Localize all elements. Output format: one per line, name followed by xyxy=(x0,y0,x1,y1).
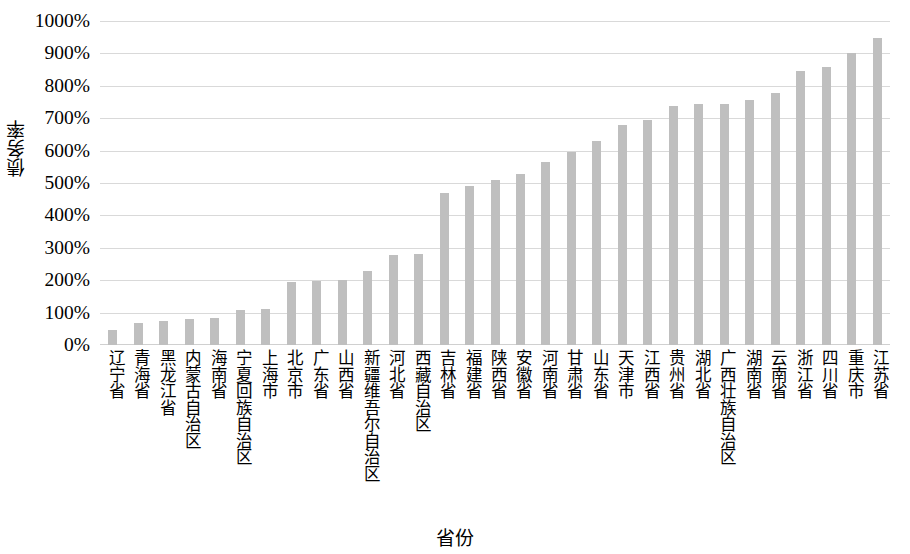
x-axis-tick-label: 四川省 xyxy=(817,349,837,399)
bar-chart: 债务率 1000%900%800%700%600%500%400%300%200… xyxy=(0,0,910,554)
bar xyxy=(618,125,627,345)
bar xyxy=(643,120,652,345)
x-axis-tick-label: 宁夏回族自治区 xyxy=(231,349,251,465)
x-axis-tick-labels: 辽宁省青海省黑龙江省内蒙古自治区海南省宁夏回族自治区上海市北京市广东省山西省新疆… xyxy=(100,349,890,529)
x-axis-title: 省份 xyxy=(0,528,910,550)
bar xyxy=(491,180,500,345)
bar xyxy=(159,321,168,345)
bar xyxy=(822,67,831,345)
bar-series xyxy=(100,21,890,345)
bar xyxy=(261,309,270,345)
y-axis-tick-label: 500% xyxy=(45,173,91,193)
y-axis-tick-label: 600% xyxy=(45,141,91,161)
bar xyxy=(108,330,117,345)
bar xyxy=(771,93,780,345)
bar xyxy=(389,255,398,345)
bar xyxy=(720,104,729,345)
bar xyxy=(567,152,576,345)
bar xyxy=(287,282,296,345)
x-axis-tick-label: 陕西省 xyxy=(486,349,506,399)
bar xyxy=(363,271,372,345)
x-axis-tick-label: 河北省 xyxy=(384,349,404,399)
bar xyxy=(745,100,754,345)
x-axis-tick-label: 云南省 xyxy=(766,349,786,399)
bar xyxy=(465,186,474,345)
y-axis-tick-label: 1000% xyxy=(35,11,90,31)
bar xyxy=(312,281,321,345)
bar xyxy=(796,71,805,345)
bar xyxy=(414,254,423,345)
x-axis-tick-label: 重庆市 xyxy=(843,349,863,399)
x-axis-tick-label: 江西省 xyxy=(639,349,659,399)
y-axis-tick-label: 200% xyxy=(45,270,91,290)
x-axis-tick-label: 新疆维吾尔自治区 xyxy=(359,349,379,481)
x-axis-tick-label: 天津市 xyxy=(613,349,633,399)
x-axis-tick-label: 吉林省 xyxy=(435,349,455,399)
bar xyxy=(210,318,219,345)
x-axis-tick-label: 河南省 xyxy=(537,349,557,399)
bar xyxy=(873,38,882,345)
x-axis-tick-label: 贵州省 xyxy=(664,349,684,399)
x-axis-tick-label: 辽宁省 xyxy=(104,349,124,399)
x-axis-tick-label: 海南省 xyxy=(206,349,226,399)
y-axis-tick-label: 400% xyxy=(45,205,91,225)
y-axis-tick-label: 100% xyxy=(45,303,91,323)
y-axis-tick-label: 700% xyxy=(45,108,91,128)
bar xyxy=(592,141,601,345)
x-axis-tick-label: 广东省 xyxy=(308,349,328,399)
y-axis-tick-label: 800% xyxy=(45,76,91,96)
bar xyxy=(847,53,856,345)
x-axis-tick-label: 北京市 xyxy=(282,349,302,399)
bar xyxy=(516,174,525,345)
x-axis-tick-label: 内蒙古自治区 xyxy=(180,349,200,448)
x-axis-tick-label: 山东省 xyxy=(588,349,608,399)
bar xyxy=(134,323,143,345)
x-axis-tick-label: 甘肃省 xyxy=(562,349,582,399)
x-axis-tick-label: 西藏自治区 xyxy=(410,349,430,432)
x-axis-tick-label: 江苏省 xyxy=(868,349,888,399)
y-axis-tick-label: 300% xyxy=(45,238,91,258)
bar xyxy=(541,162,550,345)
x-axis-tick-label: 上海市 xyxy=(257,349,277,399)
x-axis-tick-label: 山西省 xyxy=(333,349,353,399)
x-axis-tick-label: 浙江省 xyxy=(792,349,812,399)
x-axis-tick-label: 广西壮族自治区 xyxy=(715,349,735,465)
x-axis-tick-label: 湖南省 xyxy=(741,349,761,399)
plot-area xyxy=(100,21,890,345)
bar xyxy=(338,280,347,345)
x-axis-tick-label: 青海省 xyxy=(129,349,149,399)
bar xyxy=(694,104,703,345)
bar xyxy=(236,310,245,345)
y-axis-tick-label: 900% xyxy=(45,43,91,63)
x-axis-tick-label: 黑龙江省 xyxy=(155,349,175,415)
y-axis-tick-label: 0% xyxy=(64,335,90,355)
y-axis-tick-labels: 1000%900%800%700%600%500%400%300%200%100… xyxy=(0,0,96,360)
bar xyxy=(185,319,194,345)
x-axis-tick-label: 安徽省 xyxy=(511,349,531,399)
x-axis-tick-label: 湖北省 xyxy=(690,349,710,399)
bar xyxy=(440,193,449,345)
bar xyxy=(669,106,678,345)
x-axis-tick-label: 福建省 xyxy=(461,349,481,399)
